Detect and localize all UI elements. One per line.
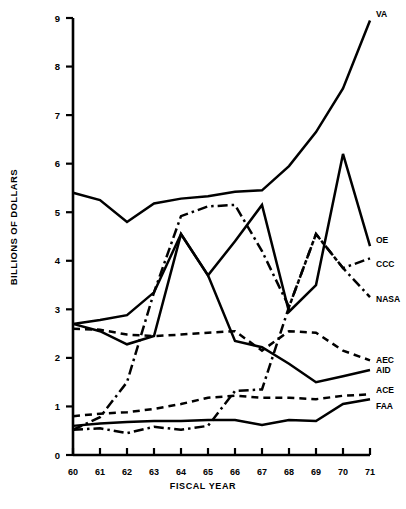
series-label-aec: AEC: [376, 355, 394, 365]
x-tick-label: 67: [257, 467, 267, 477]
x-tick-label: 71: [365, 467, 375, 477]
x-tick-label: 64: [176, 467, 186, 477]
y-tick-label: 4: [55, 255, 61, 266]
series-label-oe: OE: [376, 235, 389, 245]
x-tick-label: 65: [203, 467, 213, 477]
series-label-aid: AID: [376, 365, 391, 375]
series-path-group: [73, 20, 370, 433]
x-tick-label: 60: [68, 467, 78, 477]
x-tick-label: 62: [122, 467, 132, 477]
series-line-aid: [73, 234, 370, 382]
series-label-va: VA: [376, 9, 387, 19]
x-axis-label: FISCAL YEAR: [0, 481, 406, 491]
y-tick-label: 9: [55, 13, 60, 24]
series-label-faa: FAA: [376, 401, 393, 411]
y-tick-label: 2: [55, 352, 60, 363]
y-tick-label-group: 0123456789: [55, 13, 61, 461]
series-line-faa: [73, 399, 370, 426]
series-line-ace: [73, 394, 370, 416]
y-tick-label: 3: [55, 304, 60, 315]
x-tick-label: 69: [311, 467, 321, 477]
series-line-nasa: [73, 234, 370, 433]
x-tick-label: 70: [338, 467, 348, 477]
y-tick-label: 7: [55, 110, 60, 121]
x-tick-label-group: 606162636465666768697071: [68, 467, 375, 477]
x-tick-label: 61: [95, 467, 105, 477]
x-tick-label: 63: [149, 467, 159, 477]
x-tick-label: 68: [284, 467, 294, 477]
y-tick-label: 1: [55, 401, 61, 412]
x-tick-label: 66: [230, 467, 240, 477]
y-tick-label: 0: [55, 450, 60, 461]
series-line-va: [73, 20, 370, 222]
series-label-group: VAOECCCNASAAECAIDACEFAA: [376, 9, 400, 411]
series-label-ccc: CCC: [376, 259, 394, 269]
series-label-nasa: NASA: [376, 294, 400, 304]
y-tick-label: 5: [55, 207, 61, 218]
line-chart-svg: 0123456789 606162636465666768697071 VAOE…: [0, 0, 406, 509]
chart-container: BILLIONS OF DOLLARS 0123456789 606162636…: [0, 0, 406, 509]
series-line-aec: [73, 329, 370, 361]
series-label-ace: ACE: [376, 385, 394, 395]
y-tick-label: 8: [55, 61, 60, 72]
y-tick-label: 6: [55, 158, 60, 169]
